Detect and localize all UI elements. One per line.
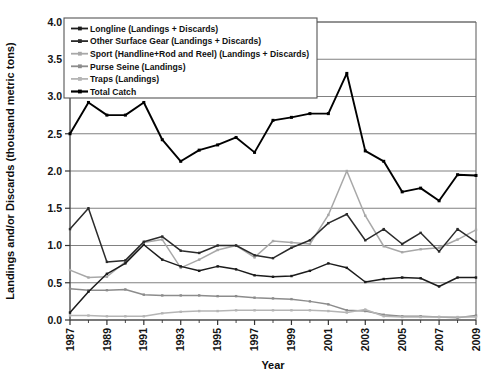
data-point [327,262,329,264]
legend-marker-2 [78,52,82,56]
data-point [290,309,292,311]
legend-marker-3 [78,64,82,68]
data-point [456,228,458,230]
data-point [290,247,292,249]
data-point [438,199,441,202]
data-point [143,244,145,246]
line-chart: 0.00.51.01.52.02.53.03.54.0 198719891991… [0,0,494,376]
data-point [327,310,329,312]
data-point [401,190,404,193]
data-point [87,101,90,104]
data-point [438,316,440,318]
data-point [419,316,421,318]
data-point [364,215,366,217]
legend-label-4: Traps (Landings) [90,74,159,84]
data-point [272,309,274,311]
data-point [106,273,108,275]
data-point [69,288,71,290]
data-point [106,289,108,291]
data-point [235,244,237,246]
data-point [401,251,403,253]
data-point [346,267,348,269]
data-point [309,300,311,302]
data-point [382,160,385,163]
data-point [419,232,421,234]
x-axis-ticks: 1987198919911993199519971999200120032005… [64,320,482,351]
data-point [143,293,145,295]
data-point [346,213,348,215]
data-point [364,281,366,283]
x-tick-label: 1991 [137,328,149,352]
data-point [346,311,348,313]
data-point [179,160,182,163]
y-tick-label: 1.5 [47,202,62,214]
data-point [253,254,255,256]
legend-marker-1 [78,39,82,43]
data-point [327,222,329,224]
data-point [438,285,440,287]
data-point [69,311,71,313]
data-point [475,229,477,231]
data-point [272,257,274,259]
data-point [161,138,164,141]
data-point [419,187,422,190]
data-point [198,270,200,272]
data-point [235,268,237,270]
data-point [309,243,311,245]
data-point [106,315,108,317]
data-point [272,119,275,122]
data-point [327,112,330,115]
data-point [87,290,89,292]
data-point [106,276,108,278]
data-point [308,112,311,115]
data-point [456,238,458,240]
data-point [309,270,311,272]
legend-label-2: Sport (Handline+Rod and Reel) (Landings … [90,49,309,59]
x-tick-label: 2009 [470,328,482,352]
data-point [69,228,71,230]
data-point [253,151,256,154]
x-tick-label: 2007 [433,328,445,352]
data-point [216,295,218,297]
chart-legend: Longline (Landings + Discards)Other Surf… [64,18,317,98]
data-point [198,149,201,152]
data-point [235,136,238,139]
data-point [105,114,108,117]
data-point [216,310,218,312]
data-point [272,297,274,299]
data-point [143,315,145,317]
x-tick-label: 2003 [359,328,371,352]
data-point [106,261,108,263]
data-point [161,312,163,314]
legend-label-3: Purse Seine (Landings) [90,62,186,72]
data-point [124,114,127,117]
data-point [272,276,274,278]
data-point [475,241,477,243]
data-point [364,239,366,241]
data-point [327,214,329,216]
data-point [475,316,477,318]
x-tick-label: 1993 [174,328,186,352]
legend-marker-0 [78,27,82,31]
x-tick-label: 2001 [322,328,334,352]
data-point [401,243,403,245]
data-point [383,315,385,317]
data-point [346,309,348,311]
data-point [124,262,126,264]
data-point [456,173,459,176]
data-point [383,278,385,280]
y-tick-label: 4.0 [47,16,62,28]
x-axis-title: Year [261,359,285,371]
data-point [235,309,237,311]
data-point [364,308,366,310]
data-point [87,207,89,209]
data-point [253,296,255,298]
legend-label-1: Other Surface Gear (Landings + Discards) [90,36,261,46]
x-tick-label: 2005 [396,328,408,352]
data-point [180,265,182,267]
data-point [180,294,182,296]
y-tick-label: 1.0 [47,239,62,251]
data-point [198,258,200,260]
chart-container: 0.00.51.01.52.02.53.03.54.0 198719891991… [0,0,494,376]
y-tick-label: 3.5 [47,53,62,65]
